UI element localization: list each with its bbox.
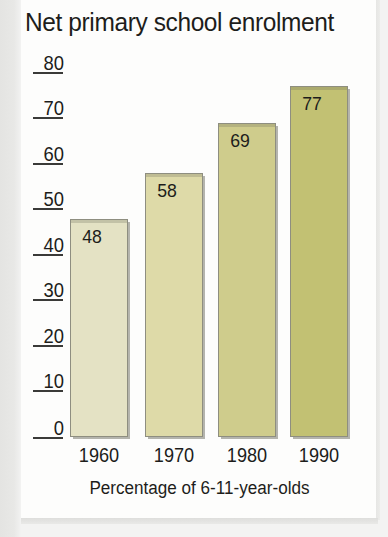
bar-value-label-1960: 48 [72, 226, 111, 248]
y-axis-label-50: 50 [33, 189, 64, 209]
bar-1960[interactable]: 48 [70, 219, 128, 437]
y-axis-label-70: 70 [33, 98, 64, 118]
bar-top-shade [71, 220, 127, 223]
y-axis-label-20: 20 [33, 326, 64, 346]
bar-chart-plot-area: 80 70 60 50 40 30 20 10 0 48 58 69 [0, 0, 388, 537]
y-axis-label-30: 30 [33, 280, 64, 300]
x-axis-label-1960: 1960 [59, 444, 139, 466]
bar-value-label-1980: 69 [220, 130, 259, 152]
y-axis-label-80: 80 [33, 53, 64, 73]
y-axis-label-0: 0 [33, 418, 64, 438]
bar-top-shade [219, 124, 275, 127]
x-axis-label-1990: 1990 [279, 444, 359, 466]
y-axis-label-10: 10 [33, 371, 64, 391]
bar-1970[interactable]: 58 [145, 173, 203, 437]
bar-1990[interactable]: 77 [290, 86, 348, 437]
bar-1980[interactable]: 69 [218, 123, 276, 437]
y-axis-label-60: 60 [33, 144, 64, 164]
page-background: Net primary school enrolment 80 70 60 50… [0, 0, 388, 537]
x-axis-caption: Percentage of 6-11-year-olds [30, 477, 369, 499]
bar-top-shade [146, 174, 202, 177]
bar-value-label-1970: 58 [147, 180, 186, 202]
y-axis-label-40: 40 [33, 235, 64, 255]
x-axis-label-1970: 1970 [134, 444, 214, 466]
x-axis-label-1980: 1980 [207, 444, 287, 466]
bar-value-label-1990: 77 [292, 93, 331, 115]
bar-top-shade [291, 87, 347, 90]
